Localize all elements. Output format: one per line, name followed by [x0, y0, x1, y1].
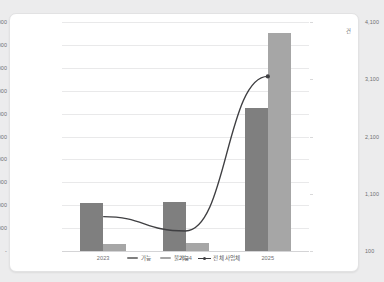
legend-item-bulganeung[interactable]: 불가능 — [160, 254, 189, 262]
left-axis-tick-label: 2,000,000 — [0, 19, 7, 25]
legend-label: 전체 사업체 — [213, 254, 240, 262]
chart-card: 건 -200,000400,000600,000800,0001,000,000… — [9, 13, 359, 272]
right-axis-tick-label: 100 — [365, 248, 384, 254]
legend-item-ganeung[interactable]: 가능 — [127, 254, 151, 262]
right-axis-tick-mark — [310, 194, 313, 195]
legend-swatch-icon — [160, 257, 171, 260]
left-axis-tick-label: 1,400,000 — [0, 88, 7, 94]
line-series — [62, 22, 309, 251]
left-axis-tick-label: 1,600,000 — [0, 65, 7, 71]
right-axis-tick-mark — [310, 79, 313, 80]
legend-swatch-icon — [127, 257, 138, 260]
legend-label: 불가능 — [174, 254, 189, 262]
right-axis-tick-label: 3,100 — [365, 76, 384, 82]
right-axis-tick-mark — [310, 22, 313, 23]
left-axis-tick-label: 800,000 — [0, 156, 7, 162]
left-axis-tick-label: 1,800,000 — [0, 42, 7, 48]
plot-area: -200,000400,000600,000800,0001,000,0001,… — [62, 22, 309, 251]
legend-line-marker-icon — [198, 257, 211, 260]
left-axis-tick-label: 200,000 — [0, 225, 7, 231]
line-path — [103, 76, 268, 231]
right-axis-unit-label: 건 — [344, 28, 352, 33]
right-axis-tick-label: 4,100 — [365, 19, 384, 25]
gridline — [62, 251, 309, 252]
left-axis-tick-label: - — [0, 248, 7, 254]
left-axis-tick-label: 400,000 — [0, 202, 7, 208]
left-axis-tick-label: 600,000 — [0, 179, 7, 185]
left-axis-tick-label: 1,200,000 — [0, 111, 7, 117]
right-axis-tick-mark — [310, 251, 313, 252]
right-axis-tick-mark — [310, 137, 313, 138]
legend-label: 가능 — [141, 254, 151, 262]
right-axis-tick-label: 2,100 — [365, 134, 384, 140]
legend-item-total-business[interactable]: 전체 사업체 — [198, 254, 241, 262]
line-marker-2025 — [266, 74, 270, 78]
right-axis-tick-label: 1,100 — [365, 191, 384, 197]
chart-legend: 가능 불가능 전체 사업체 — [10, 254, 358, 262]
left-axis-tick-label: 1,000,000 — [0, 134, 7, 140]
